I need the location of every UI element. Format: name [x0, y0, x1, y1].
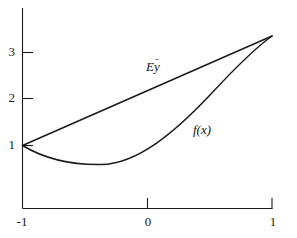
figure-panel: 3 2 1 -1 0 1 Eyˉ f(x): [0, 0, 297, 238]
curve-label-expected-y-variable-wrap: yˉ: [154, 60, 160, 73]
hat-accent-icon: ˉ: [155, 57, 159, 68]
curve-expected-y: [23, 36, 273, 146]
y-axis-tick-label-3: 3: [0, 45, 15, 58]
plot-canvas: [0, 0, 297, 238]
y-axis-tick-label-1: 1: [0, 138, 15, 151]
x-axis-tick-label-1: 1: [259, 215, 287, 228]
curve-label-function: f(x): [193, 123, 211, 136]
x-axis-tick-label-0: 0: [134, 215, 162, 228]
curve-label-expected-y-prefix: E: [146, 59, 154, 74]
curve-fx: [23, 36, 273, 165]
x-axis-tick-label-minus-1: -1: [8, 215, 36, 228]
y-axis-tick-label-2: 2: [0, 91, 15, 104]
curve-label-expected-y: Eyˉ: [146, 60, 160, 73]
